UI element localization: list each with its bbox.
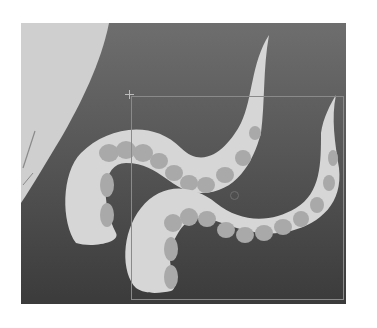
pivot-point-handle[interactable] [230,191,239,200]
artboard-canvas[interactable] [21,23,346,304]
anchor-point-handle[interactable] [125,90,134,99]
